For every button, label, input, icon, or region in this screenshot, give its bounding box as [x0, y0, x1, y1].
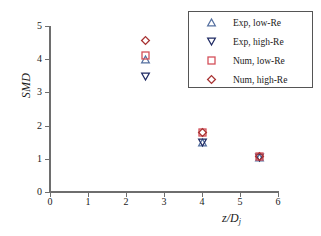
y-tick-label: 4 [28, 54, 42, 64]
x-axis-label: z/Dj [222, 211, 241, 226]
data-point [141, 72, 150, 81]
data-point [141, 51, 150, 60]
x-tick-label: 6 [269, 197, 287, 207]
x-tick-label: 2 [117, 197, 135, 207]
x-tick-label: 3 [155, 197, 173, 207]
y-tick-label: 1 [28, 154, 42, 164]
x-tick-label: 4 [193, 197, 211, 207]
legend-item[interactable]: Num, low-Re [189, 51, 312, 70]
legend-item[interactable]: Num, high-Re [189, 70, 312, 89]
legend-label: Num, high-Re [233, 75, 287, 85]
legend-label: Exp, high-Re [233, 37, 284, 47]
y-tick-label: 5 [28, 21, 42, 31]
x-axis-label-main: z/D [222, 211, 239, 225]
x-tick-label: 5 [231, 197, 249, 207]
y-tick-label: 3 [28, 87, 42, 97]
y-tick [45, 192, 50, 193]
y-axis-label: SMD [19, 56, 34, 116]
legend-marker-icon [189, 75, 233, 84]
y-tick-label: 2 [28, 121, 42, 131]
y-tick-label: 0 [28, 187, 42, 197]
chart-legend: Exp, low-ReExp, high-ReNum, low-ReNum, h… [188, 11, 313, 88]
x-tick-label: 1 [79, 197, 97, 207]
data-point [141, 36, 150, 45]
data-point [198, 138, 207, 147]
x-axis-label-subscript: j [239, 217, 241, 226]
legend-marker-icon [189, 37, 233, 46]
legend-label: Exp, low-Re [233, 18, 281, 28]
legend-marker-icon [189, 18, 233, 27]
legend-marker-icon [189, 56, 233, 65]
x-tick-label: 0 [41, 197, 59, 207]
data-point [198, 128, 207, 137]
legend-label: Num, low-Re [233, 56, 285, 66]
legend-item[interactable]: Exp, high-Re [189, 32, 312, 51]
data-point [255, 152, 264, 161]
scatter-chart: SMD z/Dj 0123456012345 Exp, low-ReExp, h… [0, 0, 321, 236]
legend-item[interactable]: Exp, low-Re [189, 13, 312, 32]
